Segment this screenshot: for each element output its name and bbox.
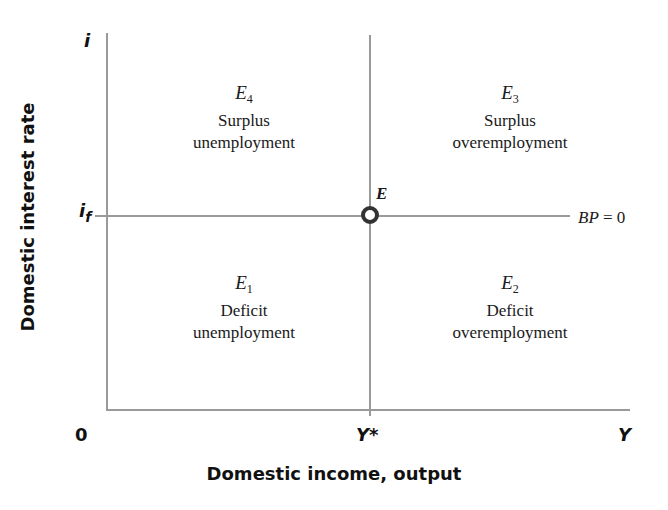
x-tick-origin: 0: [75, 424, 88, 445]
e-letter: E: [235, 82, 247, 103]
quadrant-e3-title: E3: [410, 82, 610, 110]
x-tick-ystar: Y*: [356, 424, 378, 445]
quadrant-e3-employment: overemployment: [410, 132, 610, 154]
y-tick-if: if: [79, 200, 91, 225]
quadrant-e2-employment: overemployment: [410, 322, 610, 344]
quadrant-e3: E3 Surplus overemployment: [410, 82, 610, 154]
bp-label: BP = 0: [578, 208, 625, 228]
quadrant-e2: E2 Deficit overemployment: [410, 272, 610, 344]
quadrant-e2-balance: Deficit: [410, 300, 610, 322]
quadrant-e4-employment: unemployment: [144, 132, 344, 154]
e-subscript: 1: [247, 282, 253, 296]
quadrant-e3-balance: Surplus: [410, 110, 610, 132]
bp-line: [95, 215, 570, 217]
quadrant-e1-employment: unemployment: [144, 322, 344, 344]
quadrant-e1: E1 Deficit unemployment: [144, 272, 344, 344]
quadrant-e2-title: E2: [410, 272, 610, 300]
quadrant-e1-balance: Deficit: [144, 300, 344, 322]
y-tick-i: i: [84, 30, 90, 51]
quadrant-e4-title: E4: [144, 82, 344, 110]
e-subscript: 2: [513, 282, 519, 296]
x-axis: [106, 409, 630, 411]
y-axis-label: Domestic interest rate: [17, 103, 38, 332]
equilibrium-label: E: [376, 184, 387, 204]
x-tick-y: Y: [618, 424, 631, 445]
quadrant-e4-balance: Surplus: [144, 110, 344, 132]
y-tick-if-sub: f: [85, 209, 91, 225]
e-subscript: 3: [513, 92, 519, 106]
bp-label-italic: BP: [578, 208, 599, 227]
bp-label-rest: = 0: [599, 208, 626, 227]
quadrant-e4: E4 Surplus unemployment: [144, 82, 344, 154]
x-axis-label: Domestic income, output: [0, 463, 668, 484]
y-star-line: [369, 35, 371, 416]
quadrant-e1-title: E1: [144, 272, 344, 300]
e-letter: E: [501, 272, 513, 293]
y-axis: [106, 33, 108, 410]
equilibrium-point: [361, 206, 379, 224]
e-letter: E: [235, 272, 247, 293]
e-letter: E: [501, 82, 513, 103]
e-subscript: 4: [247, 92, 253, 106]
